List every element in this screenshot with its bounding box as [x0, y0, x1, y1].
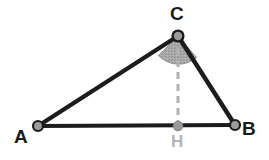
vertex-label-a: A [14, 127, 28, 146]
side-ac [38, 36, 178, 126]
vertex-label-c: C [170, 4, 184, 23]
point-h-marker [173, 121, 182, 130]
triangle-sides [38, 36, 235, 126]
geometry-figure: A B C H [0, 0, 269, 160]
side-ab [38, 125, 235, 126]
side-bc [178, 36, 235, 125]
vertex-label-h: H [171, 132, 183, 151]
vertex-label-b: B [242, 119, 256, 138]
vertex-b-marker [230, 120, 240, 130]
triangle-diagram-canvas [0, 0, 269, 160]
vertex-c-marker [173, 31, 184, 42]
vertex-a-marker [33, 121, 43, 131]
